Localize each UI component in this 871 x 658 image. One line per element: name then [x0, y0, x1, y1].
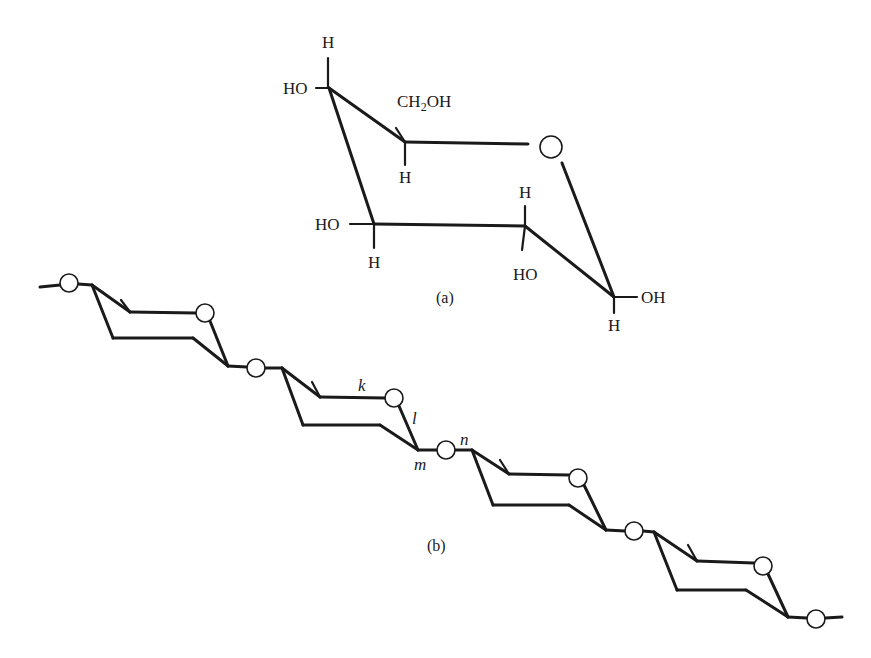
- label-c2-h: H: [519, 183, 531, 202]
- bond-c4-c3: [329, 88, 374, 224]
- chain-unit-1: [60, 274, 247, 367]
- chain-unit-3: [437, 441, 625, 531]
- chain-unit-2: [247, 359, 437, 450]
- label-c1-h: H: [608, 316, 620, 335]
- chain-unit-4: [625, 522, 842, 628]
- label-ch2oh: CH2OH: [397, 92, 451, 114]
- label-c4-oh: HO: [283, 79, 308, 98]
- ring-oxygen-atom: [540, 136, 562, 158]
- label-n: n: [460, 430, 469, 449]
- glycosidic-oxygen-3: [437, 441, 455, 459]
- label-l: l: [412, 409, 417, 428]
- bond-chain-start: [40, 285, 60, 287]
- label-c5-h: H: [399, 168, 411, 187]
- label-c2-oh: HO: [513, 265, 538, 284]
- ring-oxygen-3: [569, 469, 587, 487]
- panel-b-chain: k l m n (b): [40, 274, 842, 628]
- bond-chain-end: [825, 617, 842, 618]
- label-c4-h: H: [322, 33, 334, 52]
- bond-c5-ring-oxygen: [405, 142, 528, 144]
- label-c3-h: H: [368, 253, 380, 272]
- bond-c3-c2: [374, 224, 525, 226]
- ring-oxygen-1: [196, 304, 214, 322]
- label-c3-oh: HO: [315, 215, 340, 234]
- label-c1-oh: OH: [641, 288, 666, 307]
- diagram-canvas: H HO CH2OH H HO H H HO OH H (a): [0, 0, 871, 658]
- panel-a-chair-ring: H HO CH2OH H HO H H HO OH H (a): [283, 33, 666, 335]
- bond-c4-c5: [329, 88, 405, 142]
- caption-a: (a): [436, 289, 454, 307]
- ring-oxygen-4: [754, 557, 772, 575]
- ring-oxygen-2: [385, 389, 403, 407]
- bond-c2-oh: [522, 226, 525, 250]
- glycosidic-oxygen-2: [247, 359, 265, 377]
- glycosidic-oxygen-4: [625, 522, 643, 540]
- caption-b: (b): [427, 537, 446, 555]
- label-m: m: [414, 455, 426, 474]
- glycosidic-oxygen-5: [807, 610, 825, 628]
- label-k: k: [358, 376, 366, 395]
- glycosidic-oxygen-1: [60, 274, 78, 292]
